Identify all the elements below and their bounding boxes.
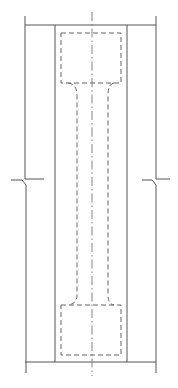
background [0, 0, 178, 388]
technical-drawing [0, 0, 178, 388]
